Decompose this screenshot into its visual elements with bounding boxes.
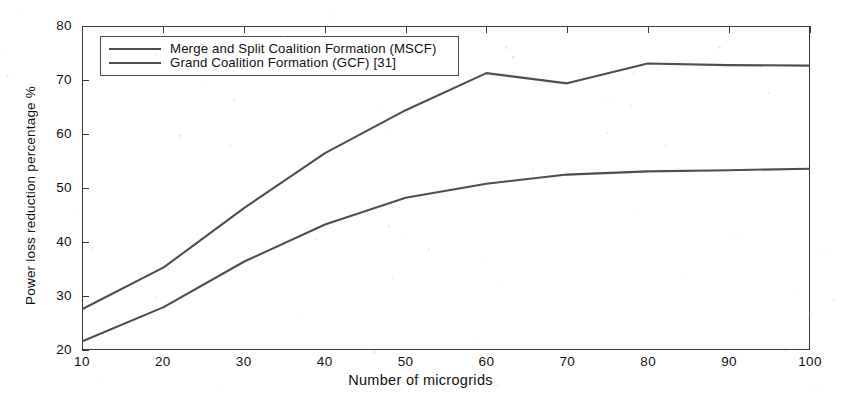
scan-speck [7, 54, 8, 55]
scan-speck [473, 336, 474, 337]
line-series-gcf [83, 169, 809, 341]
scan-speck [283, 36, 284, 37]
scan-speck [718, 46, 720, 48]
scan-speck [91, 247, 93, 249]
scan-speck [383, 110, 384, 111]
scan-speck [179, 134, 182, 137]
scan-speck [373, 351, 375, 353]
scan-speck [607, 102, 608, 103]
scan-speck [98, 381, 99, 382]
scan-speck [229, 144, 231, 146]
x-tick-mark [810, 26, 811, 33]
scan-speck [785, 350, 787, 352]
scan-speck [505, 46, 508, 49]
scan-speck [387, 129, 388, 130]
x-tick-label: 10 [74, 354, 90, 369]
x-tick-label: 40 [317, 354, 333, 369]
x-axis-label: Number of microgrids [0, 372, 841, 388]
y-tick-mark [82, 350, 89, 351]
x-tick-label: 100 [798, 354, 822, 369]
scan-speck [497, 384, 499, 386]
scan-speck [405, 234, 406, 235]
scan-speck [21, 8, 23, 10]
scan-speck [297, 316, 298, 317]
chart-figure: Merge and Split Coalition Formation (MSC… [0, 0, 841, 394]
scan-speck [815, 388, 817, 390]
scan-speck [482, 257, 483, 258]
x-tick-label: 70 [559, 354, 575, 369]
scan-speck [74, 213, 76, 215]
x-tick-label: 20 [155, 354, 171, 369]
chart-lines [83, 27, 809, 349]
scan-speck [233, 99, 235, 101]
x-tick-label: 80 [640, 354, 656, 369]
scan-speck [329, 15, 331, 17]
scan-speck [428, 248, 429, 249]
y-tick-label: 80 [0, 18, 72, 33]
scan-speck [532, 169, 534, 171]
scan-speck [388, 225, 390, 227]
scan-speck [630, 105, 632, 107]
scan-speck [823, 253, 825, 255]
x-tick-label: 50 [398, 354, 414, 369]
scan-speck [606, 132, 608, 134]
scan-speck [42, 291, 43, 292]
x-tick-label: 90 [721, 354, 737, 369]
x-tick-label: 30 [236, 354, 252, 369]
scan-speck [315, 237, 318, 240]
scan-speck [809, 313, 811, 315]
x-tick-label: 60 [479, 354, 495, 369]
scan-speck [633, 72, 635, 74]
y-axis-label: Power loss reduction percentage % [23, 66, 38, 326]
scan-speck [156, 54, 158, 56]
plot-area [82, 26, 810, 350]
scan-speck [833, 299, 835, 301]
y-tick-label: 20 [0, 342, 72, 357]
scan-speck [6, 75, 8, 77]
scan-speck [512, 56, 514, 58]
scan-speck [214, 345, 215, 346]
line-series-mscf [83, 63, 809, 308]
